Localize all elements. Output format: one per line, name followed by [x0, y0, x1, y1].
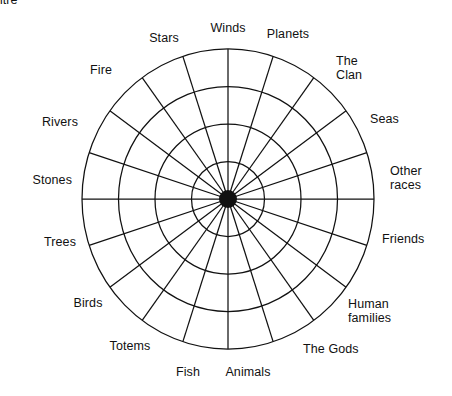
web-graphic	[0, 0, 452, 396]
centre-hub-dot	[219, 190, 237, 208]
radial-web-diagram: centre WindsPlanetsThe ClanSeasOther rac…	[0, 0, 452, 396]
